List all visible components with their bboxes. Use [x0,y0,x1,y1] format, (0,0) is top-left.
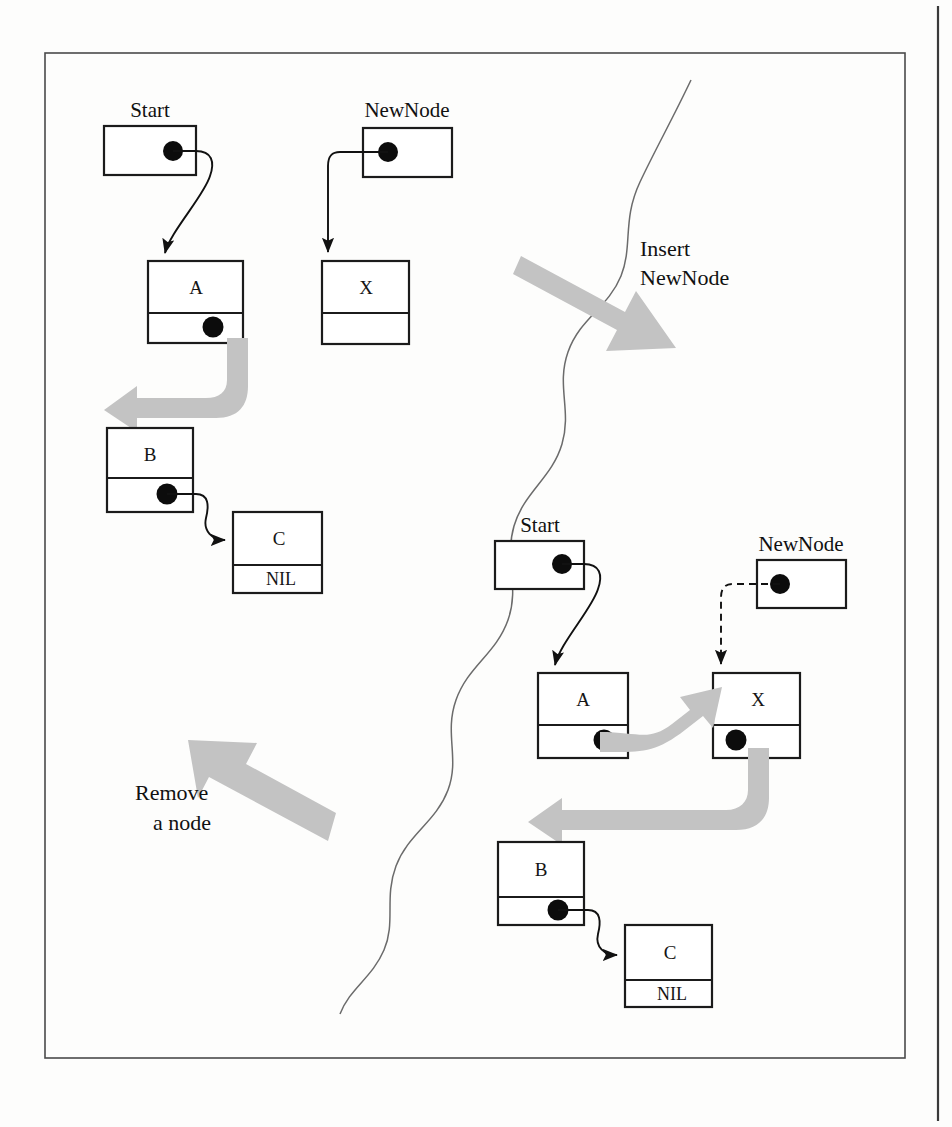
insert-caption-line2: NewNode [640,265,729,290]
node-c-label: C [273,528,286,549]
newnode-variable-box-after [757,560,846,608]
node-a-rect [148,261,243,343]
diagram-svg: A X B C NIL [0,0,952,1127]
node-b-before [107,428,193,512]
node-a-next-dot [203,317,224,338]
fat-arrow-x-to-b [528,748,769,845]
fat-arrow-a-to-b [104,338,248,432]
node-a-label-after: A [576,689,590,710]
node-b-rect-after [498,842,584,925]
node-x-rect [322,261,409,344]
node-x-rect-after [713,673,800,758]
node-c-nil-label: NIL [266,569,296,589]
node-b-after [498,842,584,925]
figure-canvas: A X B C NIL [0,0,952,1127]
node-x-label: X [359,277,373,298]
node-a-label: A [189,277,203,298]
node-a-before [148,261,243,343]
start-variable-box-after [495,541,584,589]
node-b-label-after: B [535,859,548,880]
node-b-label: B [144,444,157,465]
node-x-after [713,673,800,758]
remove-caption-line1: Remove [135,780,208,805]
remove-caption-line2: a node [153,810,211,835]
newnode-variable-label-after: NewNode [758,532,843,556]
insert-caption-line1: Insert [640,236,690,261]
newnode-variable-label: NewNode [364,98,449,122]
node-x-next-dot-after [726,730,747,751]
node-c-label-after: C [664,942,677,963]
node-x-before [322,261,409,344]
start-variable-label: Start [130,98,170,122]
node-x-label-after: X [751,689,765,710]
node-b-rect [107,428,193,512]
node-c-nil-label-after: NIL [657,984,687,1004]
start-variable-label-after: Start [520,513,560,537]
